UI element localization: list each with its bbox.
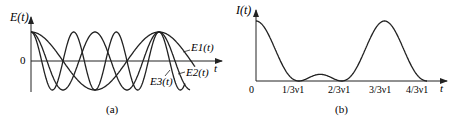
legend-e1: E1(t) (191, 41, 214, 53)
label-ylabel-b: I(t) (236, 3, 251, 18)
tick-4: 4/3ν1 (406, 84, 428, 95)
label-zero-a: 0 (20, 54, 26, 66)
caption-b: (b) (335, 103, 348, 115)
tick-3: 3/3ν1 (369, 84, 391, 95)
legend-e2: E2(t) (186, 66, 209, 78)
tick-1: 1/3ν1 (282, 84, 304, 95)
panel-b (256, 10, 447, 81)
legend-e3: E3(t) (150, 75, 173, 87)
label-ylabel-a: E(t) (10, 10, 29, 25)
intensity-curve (256, 21, 427, 81)
tick-2: 2/3ν1 (328, 84, 350, 95)
tick-0: 0 (249, 84, 254, 95)
panel-a (31, 17, 222, 92)
caption-a: (a) (106, 103, 118, 115)
figure-canvas (0, 0, 455, 125)
label-xlabel-a: t (214, 62, 217, 74)
label-xlabel-b: t (440, 82, 443, 94)
